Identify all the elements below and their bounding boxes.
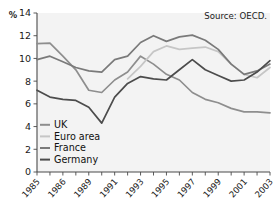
y-tick-label: 4: [25, 121, 31, 132]
y-tick-label: 14: [19, 7, 31, 18]
x-tick-label: 1999: [201, 177, 223, 200]
chart-container: % Source: OECD. 02468101214 198519861989…: [0, 0, 274, 205]
line-chart: % Source: OECD. 02468101214 198519861989…: [0, 0, 274, 205]
y-tick-label: 12: [19, 30, 31, 41]
y-tick-label: 2: [25, 144, 31, 155]
y-tick-label: 6: [25, 98, 31, 109]
x-tick-label: 1993: [123, 177, 145, 200]
y-axis-unit-label: %: [9, 10, 18, 20]
x-tick-label: 1995: [149, 177, 171, 200]
y-tick-label: 10: [19, 53, 31, 64]
source-annotation: Source: OECD.: [204, 11, 267, 21]
legend-label-uk: UK: [54, 119, 68, 130]
x-tick-label: 1986: [46, 177, 68, 200]
legend-label-france: France: [54, 142, 86, 153]
x-tick-label: 1985: [20, 177, 42, 200]
legend-label-euro-area: Euro area: [54, 131, 100, 142]
x-tick-label: 1997: [175, 177, 197, 200]
x-tick-label: 2003: [253, 177, 274, 200]
y-tick-label: 0: [25, 166, 31, 177]
x-tick-label: 2001: [227, 177, 249, 200]
legend-label-germany: Germany: [54, 154, 98, 165]
y-tick-label: 8: [25, 76, 31, 87]
x-tick-label: 1989: [72, 177, 94, 200]
x-tick-label: 1991: [98, 177, 120, 200]
y-axis-ticks: 02468101214: [19, 7, 37, 177]
x-axis-tick-labels: 1985198619891991199319951997199920012003: [20, 177, 274, 200]
